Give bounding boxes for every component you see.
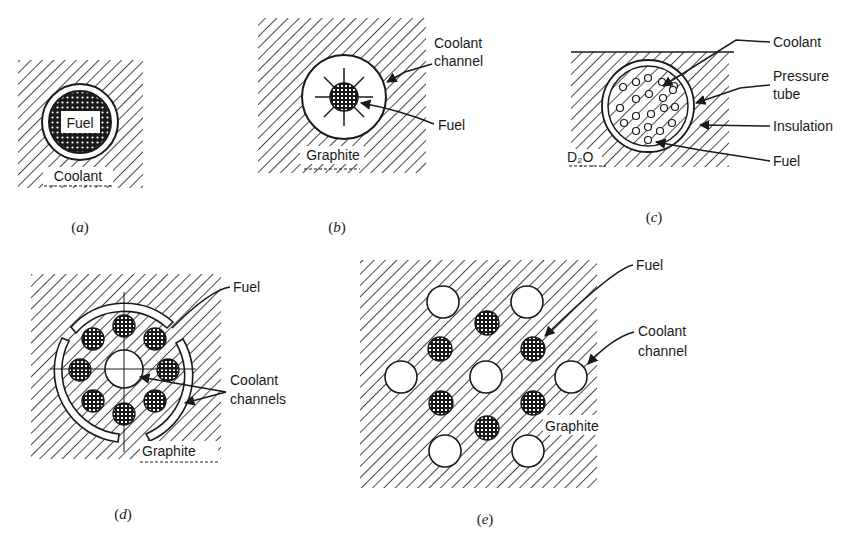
coolant-label: Coolant	[54, 168, 102, 184]
caption-e: (e)	[477, 511, 494, 528]
caption-b: (b)	[328, 219, 346, 236]
fuel-label: Fuel	[233, 279, 260, 295]
coolant-channels-label-line1: Coolant	[230, 372, 278, 388]
coolant-channel-label-line2: channel	[434, 53, 483, 69]
coolant-channels-label-line2: channels	[230, 391, 286, 407]
graphite-label: Graphite	[306, 147, 360, 163]
panel-a: Fuel Coolant (a)	[18, 60, 143, 236]
pressure-tube-label-line1: Pressure	[773, 68, 829, 84]
reactor-fuel-arrangements-figure: Fuel Coolant (a) Graphite Coolant channe…	[0, 0, 866, 538]
fuel-label: Fuel	[66, 115, 93, 131]
graphite-label: Graphite	[142, 443, 196, 459]
insulation-arrow	[700, 125, 770, 126]
panel-e: Graphite Fuel Coolant channel (e)	[360, 257, 687, 528]
coolant-channel-label-line1: Coolant	[434, 35, 482, 51]
panel-d: Graphite Fuel Coolant channels (d)	[31, 274, 286, 523]
insulation-label: Insulation	[773, 118, 833, 134]
coolant-channel-label-line2: channel	[638, 343, 687, 359]
pressure-tube-label-line2: tube	[773, 86, 800, 102]
coolant-channel-label-line1: Coolant	[638, 323, 686, 339]
d2o-label: D₂O	[567, 149, 594, 165]
panel-b: Graphite Coolant channel Fuel (b)	[258, 18, 483, 236]
fuel-label: Fuel	[773, 153, 800, 169]
caption-c: (c)	[646, 209, 663, 226]
fuel-label: Fuel	[636, 257, 663, 273]
panel-c: D₂O Coolant Pressure tube Insulation Fue…	[566, 34, 833, 226]
caption-d: (d)	[114, 506, 132, 523]
coolant-label: Coolant	[773, 34, 821, 50]
fuel-rod	[330, 83, 358, 111]
graphite-label: Graphite	[545, 418, 599, 434]
caption-a: (a)	[71, 219, 89, 236]
fuel-label: Fuel	[438, 117, 465, 133]
